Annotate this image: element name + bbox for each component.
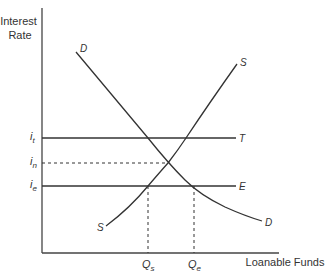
qs-label: Qs [142,258,155,273]
loanable-funds-diagram: Interest Rate Loanable Funds T E D D S S… [0,0,329,277]
ie-label: ie [30,178,37,193]
demand-bottom-label: D [265,217,272,228]
e-label: E [239,181,246,192]
qe-label: Qe [188,258,202,273]
supply-bottom-label: S [97,222,104,233]
t-label: T [239,133,246,144]
in-label: in [30,155,37,170]
supply-top-label: S [240,57,247,68]
it-label: it [30,130,35,145]
supply-curve [106,64,237,226]
demand-top-label: D [80,43,87,54]
demand-curve [76,52,262,221]
x-axis-label: Loanable Funds [246,256,325,268]
y-axis-label: Interest Rate [0,15,40,41]
